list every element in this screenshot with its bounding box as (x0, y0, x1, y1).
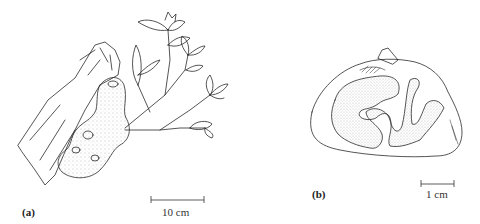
panel-a: 10 cm (a) (0, 0, 250, 224)
panel-label-a: (a) (22, 206, 35, 218)
panel-label-b: (b) (312, 188, 325, 200)
scale-bar-a-label: 10 cm (162, 206, 189, 218)
scale-bar-b-label: 1 cm (426, 188, 448, 200)
scale-bar-b (421, 180, 454, 187)
plant-tuber-illustration (0, 0, 250, 224)
scale-bar-a (151, 196, 204, 203)
panel-b: 1 cm (b) (250, 0, 480, 224)
